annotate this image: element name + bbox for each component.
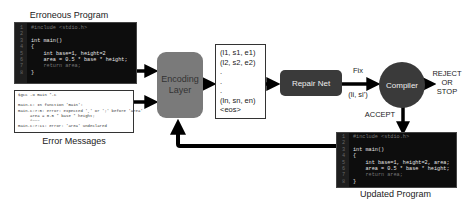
erroneous-program-title: Erroneous Program [14,10,124,20]
encoding-layer-label-line1: Encoding [161,74,199,85]
error-messages-title: Error Messages [14,136,134,146]
sequence-item: . [220,86,261,96]
code-text: int main() [31,38,62,44]
code-line: 8} [15,70,136,76]
fix-label-text: Fix [342,66,374,75]
line-number: 8 [337,179,345,185]
fix-label: Fix [342,66,374,75]
updated-program-title: Updated Program [336,189,455,199]
code-text: int main() [353,147,384,153]
repair-net-block: Repair Net [280,70,342,96]
updated-program-code: 1#include <stdio.h>23int main()4{5 int b… [336,132,457,188]
sequence-item: . [220,77,261,87]
accept-label: ACCEPT [360,110,400,119]
or-text: OR [430,78,464,87]
output-sequence-box: (l1, s1, e1)(l2, s2, e2)...(ln, sn, en)<… [215,44,266,119]
code-text: area = 0.5 * base * height; [31,57,128,63]
fix-tuple-text: (li, si') [342,90,374,99]
code-text: { [353,153,356,159]
stop-text: STOP [430,87,464,96]
sequence-item: (ln, sn, en) [220,96,261,106]
sequence-item: <eos> [220,105,261,115]
code-text: return area; [353,172,403,178]
code-text: area = 0.5 * base * height; [353,166,450,172]
error-line: main.c:7:11: error: 'area' undeclared [18,124,130,129]
sequence-item: (l1, s1, e1) [220,48,261,58]
encoding-layer-label-line2: Layer [169,85,192,96]
repair-net-label: Repair Net [292,79,330,88]
fix-tuple-label: (li, si') [342,90,374,99]
error-messages-box: $gcc -o main *.cmain.c: In function 'mai… [14,90,134,133]
reject-or-stop-label: REJECT OR STOP [430,69,464,96]
sequence-item: (l2, s2, e2) [220,58,261,68]
code-line: 8} [337,179,456,185]
reject-text: REJECT [430,69,464,78]
code-text: return area; [31,63,81,69]
erroneous-program-code: 1#include <stdio.h>23int main()4{5 int b… [14,22,137,84]
line-number: 8 [15,70,23,76]
code-text: #include <stdio.h> [353,134,409,140]
code-text: int base=1, height=2, area; [353,160,450,166]
sequence-item: . [220,67,261,77]
code-text: int base=1, height=2 [31,51,106,57]
compiler-label: Compiler [386,81,418,90]
encoding-layer-block: Encoding Layer [157,52,203,118]
code-text: } [31,70,34,76]
code-text: { [31,44,34,50]
code-text: #include <stdio.h> [31,25,87,31]
compiler-node: Compiler [379,62,425,108]
code-text: } [353,179,356,185]
